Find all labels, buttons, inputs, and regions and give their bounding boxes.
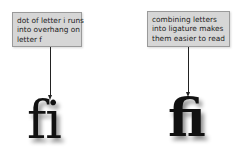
left-caption-line-1: dot of letter i runs	[17, 16, 77, 25]
left-glyph-fi-unligated: fi	[27, 94, 61, 146]
right-caption-line-2: into ligature makes	[152, 24, 225, 33]
left-callout: dot of letter i runs into overhang on le…	[12, 12, 82, 47]
right-callout: combining letters into ligature makes th…	[147, 11, 230, 47]
right-caption-line-3: them easier to read	[152, 34, 225, 43]
left-caption-line-2: into overhang on	[17, 25, 77, 34]
right-caption-line-1: combining letters	[152, 15, 225, 24]
left-caption-line-3: letter f	[17, 35, 77, 44]
right-glyph-fi-ligature: ﬁ	[168, 92, 205, 144]
